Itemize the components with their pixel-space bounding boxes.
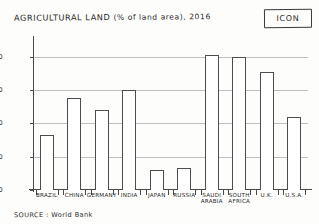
x-axis-label: INDIA xyxy=(121,192,138,198)
chart-container: AGRICULTURAL LAND (% of land area), 2016… xyxy=(0,0,319,224)
x-tick-mark xyxy=(256,190,257,195)
bar[interactable] xyxy=(177,168,191,190)
x-axis-label-line: ARABIA xyxy=(201,198,223,204)
x-tick-mark xyxy=(146,190,147,195)
x-axis-label: SAUDIARABIA xyxy=(201,192,223,204)
x-axis-label: GERMANY xyxy=(87,192,117,198)
bar[interactable] xyxy=(67,98,81,190)
bar[interactable] xyxy=(95,110,109,190)
y-tick-label-80: 80 xyxy=(0,53,3,61)
bar[interactable] xyxy=(40,135,54,190)
x-axis-label-line: BRAZIL xyxy=(36,192,57,198)
x-axis-label-line: GERMANY xyxy=(87,192,117,198)
x-tick-mark xyxy=(118,190,119,195)
x-axis-label-line: U.S.A. xyxy=(285,192,303,198)
bar-series xyxy=(33,40,308,190)
x-axis-label: U.K. xyxy=(261,192,273,198)
icon-placeholder-label: ICON xyxy=(276,14,299,23)
x-tick-mark xyxy=(250,190,251,195)
plot-area: 020406080 BRAZILCHINAGERMANYINDIAJAPANRU… xyxy=(33,40,308,190)
x-tick-mark xyxy=(283,190,284,195)
x-tick-mark xyxy=(223,190,224,195)
x-tick-mark xyxy=(278,190,279,195)
x-axis-label-line: CHINA xyxy=(65,192,84,198)
x-axis-label: SOUTHAFRICA xyxy=(228,192,250,204)
bar[interactable] xyxy=(232,57,246,190)
x-tick-mark xyxy=(305,190,306,195)
bar[interactable] xyxy=(205,55,219,190)
y-tick-label-60: 60 xyxy=(0,86,3,94)
x-axis-label: RUSSIA xyxy=(173,192,195,198)
y-tick-label-20: 20 xyxy=(0,153,3,161)
x-tick-mark xyxy=(168,190,169,195)
source-note: SOURCE : World Bank xyxy=(14,211,93,220)
x-axis-label-line: RUSSIA xyxy=(173,192,195,198)
x-tick-mark xyxy=(58,190,59,195)
x-axis-label: JAPAN xyxy=(148,192,166,198)
bar[interactable] xyxy=(150,170,164,190)
x-axis-label: CHINA xyxy=(65,192,84,198)
y-tick-mark-0 xyxy=(30,190,34,191)
bar[interactable] xyxy=(122,90,136,190)
chart-title-subtitle: (% of land area), 2016 xyxy=(113,12,210,22)
x-tick-mark xyxy=(140,190,141,195)
bar[interactable] xyxy=(260,72,274,190)
y-tick-label-40: 40 xyxy=(0,119,3,127)
x-axis-label: U.S.A. xyxy=(285,192,303,198)
x-tick-mark xyxy=(195,190,196,195)
x-axis-label-line: INDIA xyxy=(121,192,138,198)
x-axis-label-line: JAPAN xyxy=(148,192,166,198)
icon-placeholder-box[interactable]: ICON xyxy=(264,9,312,28)
chart-title: AGRICULTURAL LAND (% of land area), 2016 xyxy=(14,11,211,23)
bar[interactable] xyxy=(287,117,301,190)
x-axis-label-line: U.K. xyxy=(261,192,273,198)
x-axis-label: BRAZIL xyxy=(36,192,57,198)
y-tick-label-0: 0 xyxy=(0,186,3,194)
x-axis-label-line: AFRICA xyxy=(228,198,250,204)
chart-title-main: AGRICULTURAL LAND xyxy=(14,12,110,23)
